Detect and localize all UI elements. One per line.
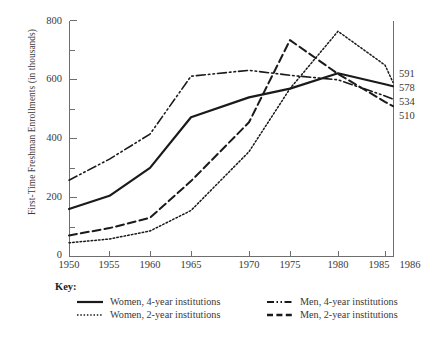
enrollment-line-chart: First-Time Freshman Enrollments (in thou… (0, 0, 438, 338)
key-label-men-2-year: Men, 2-year institutions (300, 310, 398, 320)
y-major-ticks (70, 21, 77, 257)
key-title: Key: (55, 281, 435, 292)
line-style-dotted-icon (77, 310, 103, 320)
key-label-women-4-year: Women, 4-year institutions (110, 297, 220, 307)
series-line-men-4-year (69, 70, 393, 180)
key-item-men-2-year: Men, 2-year institutions (267, 310, 437, 320)
key-item-men-4-year: Men, 4-year institutions (267, 297, 437, 307)
key-label-men-4-year: Men, 4-year institutions (300, 297, 398, 307)
series-line-women-2-year (69, 31, 393, 243)
key-label-women-2-year: Women, 2-year institutions (110, 310, 220, 320)
series-line-men-2-year (69, 40, 393, 235)
line-style-dashed-icon (267, 310, 293, 320)
key-item-women-2-year: Women, 2-year institutions (77, 310, 247, 320)
chart-key: Key: Women, 4-year institutions Men, 4-y… (55, 281, 435, 320)
key-item-women-4-year: Women, 4-year institutions (77, 297, 247, 307)
line-style-dash-dot-dot-icon (267, 297, 293, 307)
x-ticks (70, 251, 386, 257)
axis-frame (70, 21, 394, 257)
line-style-solid-icon (77, 297, 103, 307)
